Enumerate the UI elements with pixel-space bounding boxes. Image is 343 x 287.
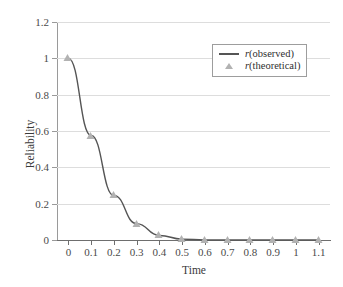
legend-label-theoretical: r(theoretical) [245,61,300,72]
y-tick-label: 0 [44,235,50,246]
legend-label-observed: r(observed) [245,49,294,60]
legend-item-observed: r(observed) [218,48,300,60]
y-tick-label: 1 [44,53,50,64]
triangle-swatch-icon [218,63,240,69]
data-point-marker [87,132,95,139]
data-point-marker [155,231,163,238]
line-swatch-icon [218,53,240,55]
x-tick-label: 0.1 [84,247,98,258]
data-point-marker [314,236,322,243]
data-point-marker [64,54,72,61]
data-point-marker [246,236,254,243]
data-point-marker [178,235,186,242]
y-tick-label: 1.2 [35,17,49,28]
x-tick-label: 1.1 [312,247,326,258]
x-axis-title: Time [57,264,331,276]
x-tick [91,240,92,245]
data-point-marker [269,236,277,243]
x-tick [159,240,160,245]
x-tick-label: 0.9 [266,247,280,258]
chart-figure: Reliability 00.20.40.60.811.2 00.10.20.3… [0,0,343,287]
x-tick [68,240,69,245]
legend-label-observed-text: (observed) [249,48,294,59]
data-point-marker [291,236,299,243]
y-tick [52,240,57,241]
data-point-marker [132,220,140,227]
data-point-marker [109,191,117,198]
x-tick-label: 0.7 [221,247,235,258]
chart-legend: r(observed) r(theoretical) [212,44,307,77]
y-tick-label: 0.6 [35,126,49,137]
x-tick-label: 0.8 [244,247,258,258]
x-tick-label: 0.2 [107,247,121,258]
x-tick-label: 1 [293,247,299,258]
legend-label-theoretical-text: (theoretical) [249,60,300,71]
x-tick-label: 0 [66,247,72,258]
legend-item-theoretical: r(theoretical) [218,60,300,72]
x-tick-label: 0.5 [175,247,189,258]
x-tick-label: 0.6 [198,247,212,258]
x-tick [114,240,115,245]
y-tick-label: 0.2 [35,198,49,209]
y-tick-label: 0.4 [35,162,49,173]
y-tick-label: 0.8 [35,89,49,100]
x-tick [137,240,138,245]
data-point-marker [223,236,231,243]
x-tick-label: 0.4 [153,247,167,258]
data-point-marker [200,236,208,243]
x-tick-label: 0.3 [130,247,144,258]
